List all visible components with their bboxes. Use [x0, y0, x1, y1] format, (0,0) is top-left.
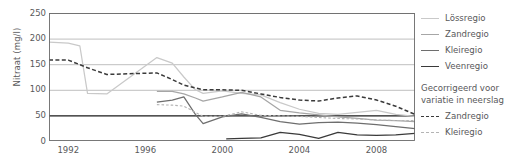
legend-note: Gecorrigeerd voor variatie in neerslag: [421, 83, 521, 106]
legend-item-veenregio[interactable]: Veenregio: [421, 58, 523, 74]
legend-item-kleiregio[interactable]: Kleiregio: [421, 124, 523, 140]
line-chart-svg: [49, 13, 415, 141]
legend-item-zandregio[interactable]: Zandregio: [421, 108, 523, 124]
legend-corrected-entries: ZandregioKleiregio: [421, 108, 523, 140]
legend-swatch-icon: [421, 66, 439, 67]
legend-label: Kleiregio: [445, 128, 482, 137]
series-kleiregio: [157, 97, 415, 129]
legend-item-kleiregio[interactable]: Kleiregio: [421, 42, 523, 58]
x-tick-2008: 2008: [356, 146, 396, 155]
nitrate-chart-figure: Nitraat (mg/l) 050100150200250 199219962…: [0, 0, 523, 164]
legend-note-line1: Gecorrigeerd voor: [421, 83, 521, 95]
plot-frame: [50, 14, 415, 141]
x-tick-1992: 1992: [48, 146, 88, 155]
series-lössregio: [49, 42, 415, 116]
series-zandregio-gecorrigeerd: [49, 60, 415, 114]
legend-swatch-icon: [421, 116, 439, 117]
legend-main-entries: LössregioZandregioKleiregioVeenregio: [421, 10, 523, 74]
series-veenregio: [226, 132, 415, 139]
legend-label: Kleiregio: [445, 46, 482, 55]
legend-label: Zandregio: [445, 112, 489, 121]
x-tick-1996: 1996: [125, 146, 165, 155]
legend-swatch-icon: [421, 50, 439, 51]
legend-item-lössregio[interactable]: Lössregio: [421, 10, 523, 26]
gridlines: [49, 14, 415, 116]
legend-swatch-icon: [421, 18, 439, 19]
plot-area: [49, 13, 415, 141]
legend-label: Zandregio: [445, 30, 489, 39]
x-tick-2004: 2004: [279, 146, 319, 155]
series-kleiregio-gecorrigeerd: [157, 105, 415, 121]
legend-item-zandregio[interactable]: Zandregio: [421, 26, 523, 42]
chart-legend: LössregioZandregioKleiregioVeenregio Gec…: [421, 10, 523, 140]
legend-label: Veenregio: [445, 62, 488, 71]
legend-label: Lössregio: [445, 14, 486, 23]
x-tick-2000: 2000: [202, 146, 242, 155]
legend-swatch-icon: [421, 132, 439, 133]
legend-note-line2: variatie in neerslag: [421, 95, 521, 107]
series-zandregio: [157, 91, 415, 121]
legend-swatch-icon: [421, 34, 439, 35]
plot-border: [50, 14, 415, 141]
